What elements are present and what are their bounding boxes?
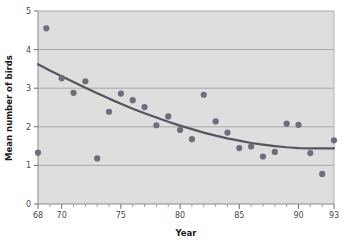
data-point <box>118 91 124 97</box>
x-tick-label: 70 <box>57 211 67 220</box>
data-point <box>248 143 254 149</box>
data-point <box>284 121 290 127</box>
y-axis-title: Mean number of birds <box>4 55 14 161</box>
y-tick-label: 5 <box>26 7 31 16</box>
y-tick-label: 0 <box>26 200 31 209</box>
data-point <box>331 137 337 143</box>
data-point <box>70 90 76 96</box>
data-point <box>236 145 242 151</box>
data-point <box>319 171 325 177</box>
data-point <box>94 155 100 161</box>
data-point <box>272 149 278 155</box>
data-point <box>130 97 136 103</box>
data-point <box>82 78 88 84</box>
data-point <box>201 92 207 98</box>
y-tick-label: 4 <box>26 46 31 55</box>
data-point <box>224 129 230 135</box>
plot-area-background <box>38 11 334 204</box>
data-point <box>35 150 41 156</box>
data-point <box>260 153 266 159</box>
y-tick-label: 3 <box>26 84 31 93</box>
x-axis-title: Year <box>174 228 197 238</box>
data-point <box>43 25 49 31</box>
data-point <box>141 104 147 110</box>
x-tick-label: 93 <box>329 211 339 220</box>
data-point <box>177 127 183 133</box>
x-tick-label: 68 <box>33 211 43 220</box>
data-point <box>295 122 301 128</box>
data-point <box>307 150 313 156</box>
scatter-plot: 68707580859093 012345 Year Mean number o… <box>0 0 351 246</box>
x-tick-label: 85 <box>234 211 244 220</box>
data-point <box>189 136 195 142</box>
data-point <box>59 75 65 81</box>
x-tick-label: 80 <box>175 211 185 220</box>
x-tick-label: 90 <box>293 211 303 220</box>
data-point <box>106 109 112 115</box>
y-tick-label: 2 <box>26 123 31 132</box>
y-tick-label: 1 <box>26 161 31 170</box>
x-tick-label: 75 <box>116 211 126 220</box>
data-point <box>165 113 171 119</box>
data-point <box>213 118 219 124</box>
chart-container: 68707580859093 012345 Year Mean number o… <box>0 0 351 246</box>
data-point <box>153 122 159 128</box>
